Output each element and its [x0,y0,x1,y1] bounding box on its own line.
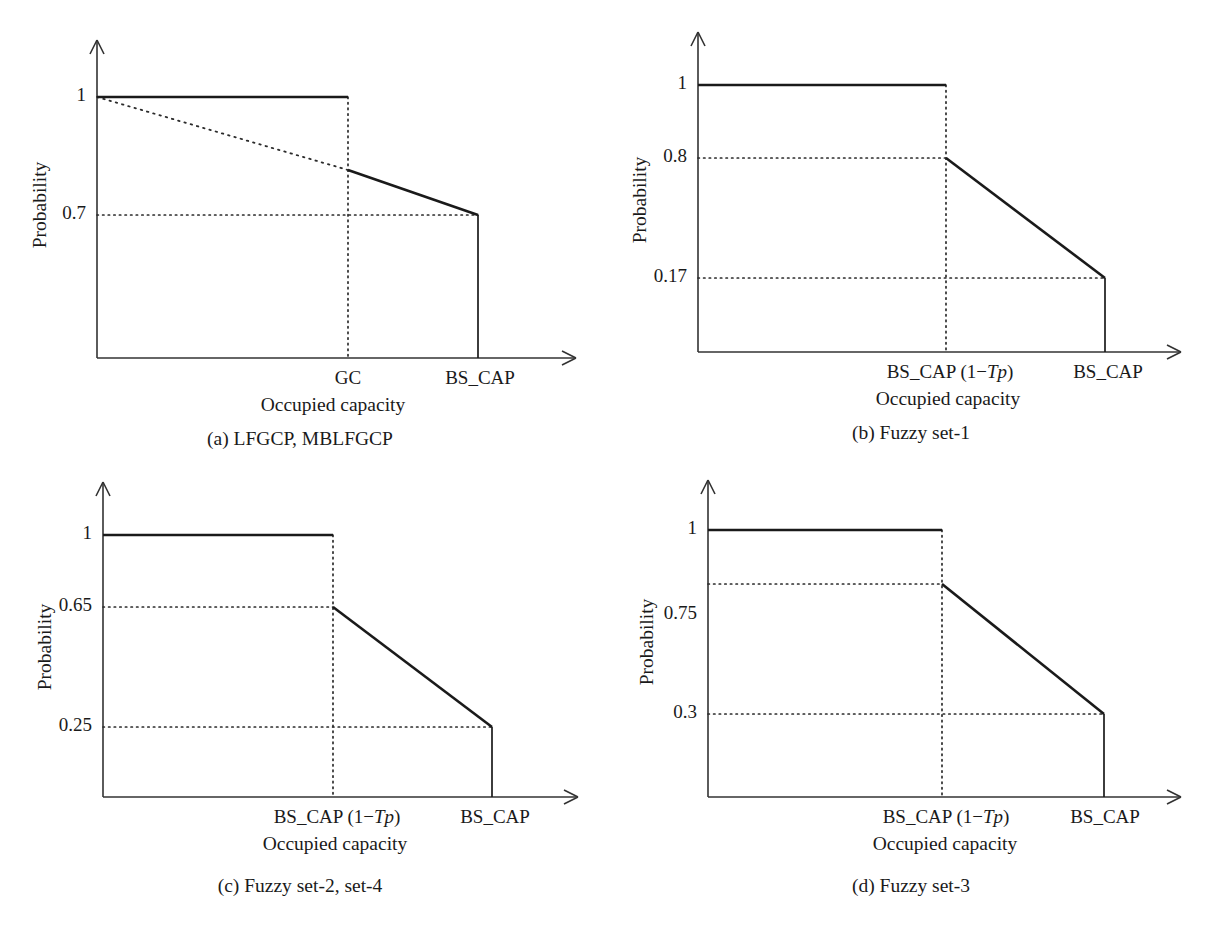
panel-b: 1 0.8 0.17 BS_CAP (1−Tp) BS_CAP Occupied… [608,0,1215,460]
ytick-label-b-2: 0.17 [654,265,687,286]
figure-four-panel-probability: 1 0.7 GC BS_CAP Occupied capacity Probab… [0,0,1215,932]
xaxis-title-b: Occupied capacity [876,388,1021,409]
ytick-label-b-1: 0.8 [663,145,687,166]
xaxis-title-d: Occupied capacity [873,833,1018,854]
xtick-label-c-1: BS_CAP [460,806,530,827]
ytick-label-c-0: 1 [83,522,93,543]
probability-curve-d-slope [942,584,1104,714]
ytick-label-d-1: 0.75 [664,602,697,623]
yaxis-title-b: Probability [629,156,650,243]
xtick-label-d-0: BS_CAP (1−Tp) [883,806,1010,828]
xtick-label-b-0: BS_CAP (1−Tp) [887,361,1014,383]
xaxis-title-a: Occupied capacity [261,394,406,415]
ytick-label-b-0: 1 [678,72,688,93]
guides-panel-d [708,530,1104,797]
guides-panel-b [698,85,1105,352]
xtick-b-0-prefix: BS_CAP (1 [887,361,977,383]
caption-panel-d: (d) Fuzzy set-3 [852,875,970,897]
probability-curve-c-slope [333,607,492,727]
caption-panel-c: (c) Fuzzy set-2, set-4 [218,875,383,897]
axes-panel-d [701,480,1181,804]
panel-d: 1 0.75 0.3 BS_CAP (1−Tp) BS_CAP Occupied… [608,452,1215,922]
guides-panel-a [97,97,478,358]
probability-curve-a-slope [348,170,478,215]
ytick-label-c-2: 0.25 [59,714,92,735]
yaxis-title-a: Probability [29,161,50,248]
probability-curve-b-slope [946,158,1105,278]
xtick-label-b-1: BS_CAP [1073,361,1143,382]
ytick-label-d-2: 0.3 [673,701,697,722]
caption-panel-a: (a) LFGCP, MBLFGCP [207,428,393,450]
ytick-label-d-0: 1 [688,517,698,538]
axes-panel-c [96,482,578,804]
panel-c: 1 0.65 0.25 BS_CAP (1−Tp) BS_CAP Occupie… [0,452,610,922]
yaxis-title-c: Probability [34,603,55,690]
ytick-label-a-0: 1 [77,84,87,105]
axes-panel-a [90,40,576,365]
caption-panel-b: (b) Fuzzy set-1 [852,422,970,444]
linear-reference-curve-a [97,97,348,170]
xaxis-title-c: Occupied capacity [263,833,408,854]
ytick-label-c-1: 0.65 [59,594,92,615]
guides-panel-c [103,535,492,797]
axes-panel-b [691,32,1181,359]
ytick-label-a-1: 0.7 [62,202,86,223]
xtick-label-a-0: GC [335,367,361,388]
xtick-label-c-0: BS_CAP (1−Tp) [274,806,401,828]
panel-a: 1 0.7 GC BS_CAP Occupied capacity Probab… [0,0,610,460]
yaxis-title-d: Probability [636,598,657,685]
xtick-label-a-1: BS_CAP [445,367,515,388]
xtick-label-d-1: BS_CAP [1070,806,1140,827]
